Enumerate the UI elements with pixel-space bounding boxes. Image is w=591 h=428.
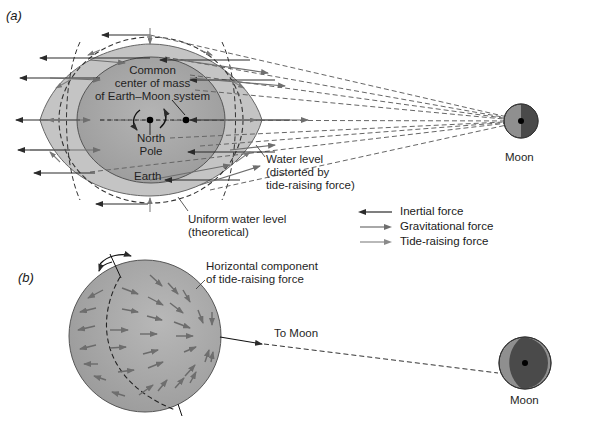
center-of-mass-label-line3: of Earth–Moon system: [85, 90, 220, 103]
center-of-mass-label-line2: center of mass: [85, 77, 220, 90]
north-pole-label-line2: Pole: [128, 145, 174, 158]
legend-label-tide-raising: Tide-raising force: [400, 235, 488, 247]
to-moon-dashed-line: [264, 344, 498, 373]
center-of-mass-dot: [183, 117, 190, 124]
north-pole-label: North Pole: [128, 132, 174, 158]
horizontal-component-label-line2: of tide-raising force: [206, 273, 318, 286]
center-of-mass-label-line1: Common: [85, 64, 220, 77]
legend-label-gravitational: Gravitational force: [400, 220, 493, 232]
uniform-water-level-label-line2: (theoretical): [188, 226, 286, 239]
moon-a-label: Moon: [505, 151, 534, 164]
inertial-arrow-icon: [358, 207, 394, 217]
legend-label-inertial: Inertial force: [400, 205, 463, 217]
panel-a-tag-letter: a: [10, 8, 17, 23]
gravitational-arrow-icon: [358, 222, 394, 232]
north-pole-label-line1: North: [128, 132, 174, 145]
water-level-label-line3: tide-raising force): [266, 179, 355, 192]
panel-b-tag: (b): [18, 270, 34, 285]
panel-a-tag: (a): [6, 8, 22, 23]
horizontal-component-label: Horizontal component of tide-raising for…: [206, 260, 318, 286]
tide-raising-arrow-icon: [358, 237, 394, 247]
earth-b-body: [69, 260, 221, 412]
water-level-label: Water level (distorted by tide-raising f…: [266, 153, 355, 192]
to-moon-arrow: [220, 337, 262, 344]
uniform-water-level-label: Uniform water level (theoretical): [188, 213, 286, 239]
uniform-level-leader: [178, 197, 188, 211]
to-moon-label: To Moon: [274, 327, 318, 340]
center-of-mass-label: Common center of mass of Earth–Moon syst…: [85, 64, 220, 103]
moon-b-label: Moon: [510, 394, 539, 407]
moon-b: [499, 337, 551, 389]
rotation-axis-bottom: [178, 404, 182, 416]
water-level-label-line2: (distorted by: [266, 166, 355, 179]
earth-label: Earth: [134, 170, 162, 183]
uniform-water-level-label-line1: Uniform water level: [188, 213, 286, 226]
panel-b-tag-letter: b: [22, 270, 29, 285]
earth-center-dot: [147, 117, 154, 124]
water-level-label-line1: Water level: [266, 153, 355, 166]
moon-a: [504, 104, 538, 138]
horizontal-component-label-line1: Horizontal component: [206, 260, 318, 273]
